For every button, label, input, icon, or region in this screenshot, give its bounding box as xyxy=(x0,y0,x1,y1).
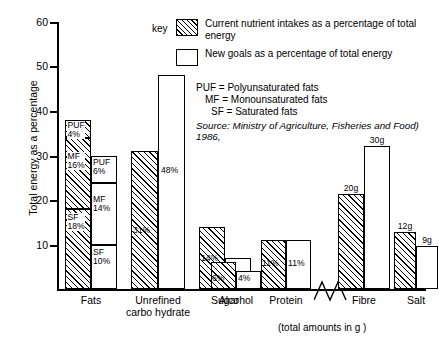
x-axis-line xyxy=(57,289,426,291)
legend-label-current-intakes: Current nutrient intakes as a percentage… xyxy=(205,18,439,42)
category-label-salt: Salt xyxy=(392,294,439,306)
bar-protein-current-label: 11% xyxy=(262,259,279,268)
bar-fats-current xyxy=(65,120,91,289)
bar-salt-goal xyxy=(416,246,438,289)
bar-alcohol-goal-label: 4% xyxy=(238,274,250,283)
y-tick-20 xyxy=(50,200,57,202)
y-label-50: 50 xyxy=(22,60,48,72)
bar-fibre-current-label: 20g xyxy=(337,183,365,193)
y-label-40: 40 xyxy=(22,105,48,117)
source-citation: Source: Ministry of Agriculture, Fisheri… xyxy=(196,120,439,142)
y-label-10: 10 xyxy=(22,239,48,251)
bar-fats-goal-label-puf: PUF 6% xyxy=(93,158,110,176)
bar-fibre-goal xyxy=(364,146,390,289)
bar-salt-goal-label: 9g xyxy=(415,235,439,245)
nutrient-intake-bar-chart: Total energy as a percentage 60 50 40 30… xyxy=(0,0,439,352)
bar-fats-goal-label-sf: SF 10% xyxy=(93,248,110,266)
y-tick-60 xyxy=(50,22,57,24)
bar-unrefined-current xyxy=(131,151,158,289)
y-label-20: 20 xyxy=(22,194,48,206)
bar-salt-current-label: 12g xyxy=(393,221,417,231)
bar-fats-current-label-puf: PUF 4% xyxy=(67,121,85,139)
bar-fats-current-label-sf: SF 18% xyxy=(67,213,85,231)
category-label-fibre: Fibre xyxy=(331,294,397,306)
abbreviation-mf: MF = Monounsaturated fats xyxy=(205,94,328,107)
abbreviation-puf: PUF = Polyunsaturated fats xyxy=(196,82,319,95)
bar-unrefined-goal-label: 48% xyxy=(161,166,178,175)
category-label-fats: Fats xyxy=(58,294,124,306)
bar-fats-goal-label-mf: MF 14% xyxy=(93,195,110,213)
legend-label-new-goals: New goals as a percentage of total energ… xyxy=(205,48,392,60)
bar-fats-current-label-mf: MF 16% xyxy=(67,152,85,170)
category-label-unrefined-carbohydrate: Unrefined carbo hydrate xyxy=(122,294,194,319)
category-label-protein: Protein xyxy=(253,294,319,306)
y-label-60: 60 xyxy=(22,16,48,28)
y-tick-40 xyxy=(50,111,57,113)
legend-swatch-current-intakes xyxy=(176,19,198,36)
y-tick-30 xyxy=(50,156,57,158)
y-tick-10 xyxy=(50,245,57,247)
abbreviation-sf: SF = Saturated fats xyxy=(211,106,297,119)
key-title: key xyxy=(152,23,168,34)
bar-unrefined-current-label: 31% xyxy=(133,226,150,235)
bar-fats-goal-segment-mf xyxy=(91,183,117,245)
bar-alcohol-current-label: 6% xyxy=(212,274,224,283)
bar-fibre-current xyxy=(338,194,364,289)
bar-protein-goal-label: 11% xyxy=(288,259,305,268)
y-tick-50 xyxy=(50,66,57,68)
bar-fats-current-segment-mf xyxy=(65,138,91,209)
y-label-30: 30 xyxy=(22,150,48,162)
legend-swatch-new-goals xyxy=(176,49,198,66)
bar-salt-current xyxy=(394,232,416,289)
grams-footnote: (total amounts in g ) xyxy=(278,322,366,333)
bar-unrefined-goal xyxy=(158,75,185,289)
y-axis-line xyxy=(57,22,59,290)
